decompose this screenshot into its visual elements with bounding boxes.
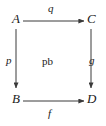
node-label-c: C — [87, 12, 96, 25]
commutative-diagram: A C B D q p g f pb — [0, 0, 106, 126]
edge-label-q: q — [48, 3, 54, 14]
edge-label-p: p — [6, 55, 12, 66]
node-label-a: A — [12, 12, 20, 25]
node-label-d: D — [87, 92, 96, 105]
pullback-annotation: pb — [42, 56, 53, 67]
node-label-b: B — [12, 92, 20, 105]
edge-label-f: f — [48, 108, 51, 119]
edge-label-g: g — [89, 55, 95, 66]
